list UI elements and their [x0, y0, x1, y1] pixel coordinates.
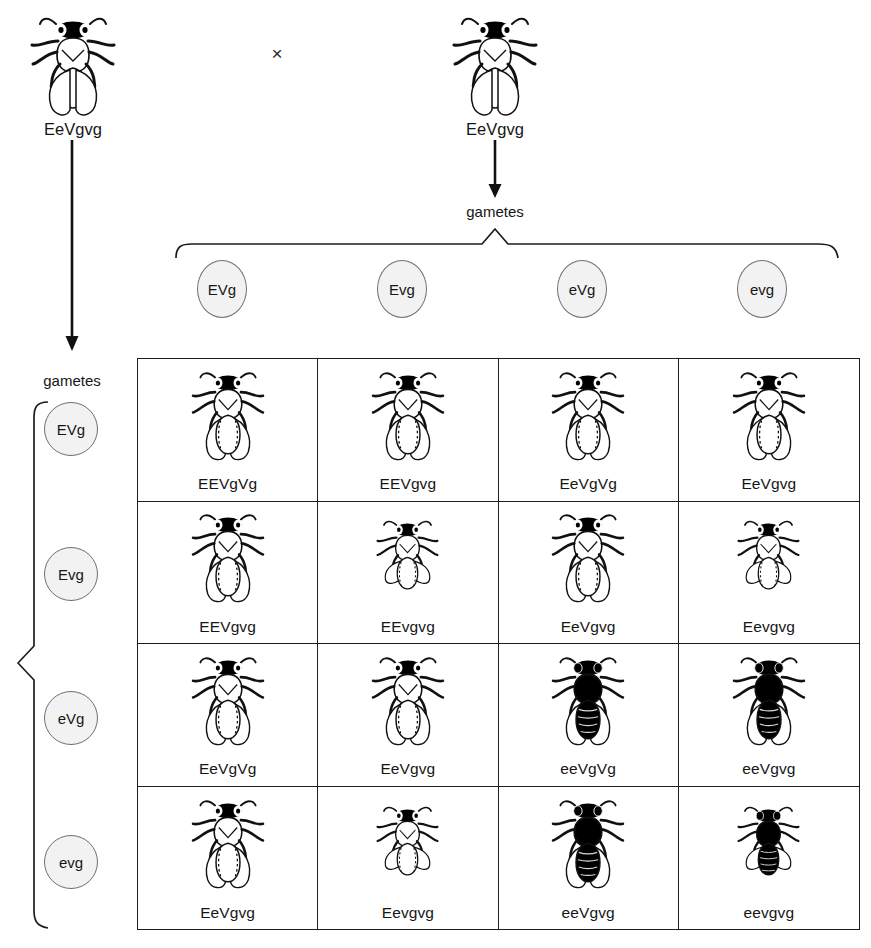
offspring-genotype-label: EeVgvg — [741, 476, 796, 492]
offspring-genotype-label: eeVgvg — [562, 905, 615, 921]
punnett-cell-r2-c3[interactable]: EeVgvg — [499, 502, 679, 645]
gametes-label-left: gametes — [10, 372, 134, 389]
offspring-fly-grey-normal-icon — [499, 359, 678, 474]
punnett-cell-r3-c4[interactable]: eeVgvg — [679, 644, 859, 787]
punnett-cell-r1-c4[interactable]: EeVgvg — [679, 359, 859, 502]
offspring-fly-grey-normal-icon — [138, 502, 317, 617]
offspring-fly-grey-normal-icon — [499, 502, 678, 617]
punnett-cell-r2-c4[interactable]: Eevgvg — [679, 502, 859, 645]
punnett-cell-r4-c4[interactable]: eevgvg — [679, 787, 859, 930]
parent-left-fly — [18, 14, 128, 118]
punnett-cell-r2-c1[interactable]: EEVgvg — [138, 502, 318, 645]
offspring-fly-grey-normal-icon — [318, 644, 497, 759]
cross-symbol: × — [250, 44, 304, 63]
offspring-genotype-label: EEVgvg — [199, 619, 256, 635]
offspring-fly-grey-vestigial-icon — [318, 787, 497, 903]
punnett-cell-r1-c3[interactable]: EeVgVg — [499, 359, 679, 502]
offspring-genotype-label: EeVgVg — [559, 476, 616, 492]
offspring-fly-grey-vestigial-icon — [318, 502, 497, 617]
gamete-top-1[interactable]: EVg — [197, 260, 247, 318]
offspring-genotype-label: EeVgvg — [380, 761, 435, 777]
gamete-left-4[interactable]: evg — [44, 835, 98, 889]
gamete-top-3[interactable]: eVg — [557, 260, 607, 318]
offspring-genotype-label: EeVgvg — [200, 905, 255, 921]
gamete-left-2[interactable]: Evg — [44, 547, 98, 601]
offspring-fly-ebony-normal-icon — [499, 644, 678, 759]
punnett-cell-r1-c1[interactable]: EEVgVg — [138, 359, 318, 502]
gamete-left-3[interactable]: eVg — [44, 691, 98, 745]
punnett-grid: EEVgVgEEVgvgEeVgVgEeVgvgEEVgvgEEvgvgEeVg… — [137, 358, 860, 930]
top-gamete-brace — [170, 224, 850, 260]
offspring-genotype-label: EeVgVg — [199, 761, 256, 777]
gamete-left-4-label: evg — [59, 854, 83, 871]
punnett-cell-r2-c2[interactable]: EEvgvg — [318, 502, 498, 645]
punnett-square-diagram: EeVgvg × — [0, 0, 871, 948]
gamete-top-3-label: eVg — [569, 281, 596, 298]
gamete-top-2[interactable]: Evg — [377, 260, 427, 318]
punnett-cell-r3-c3[interactable]: eeVgVg — [499, 644, 679, 787]
punnett-cell-r4-c3[interactable]: eeVgvg — [499, 787, 679, 930]
offspring-fly-ebony-vestigial-icon — [679, 787, 859, 903]
gamete-left-1[interactable]: EVg — [44, 402, 98, 456]
offspring-genotype-label: Eevgvg — [743, 619, 795, 635]
parent-right-genotype: EeVgvg — [422, 120, 568, 139]
punnett-cell-r4-c2[interactable]: Eevgvg — [318, 787, 498, 930]
punnett-cell-r1-c2[interactable]: EEVgvg — [318, 359, 498, 502]
gamete-top-4-label: evg — [750, 281, 774, 298]
gamete-left-1-label: EVg — [57, 421, 85, 438]
gamete-top-1-label: EVg — [208, 281, 236, 298]
offspring-genotype-label: EeVgvg — [561, 619, 616, 635]
punnett-cell-r4-c1[interactable]: EeVgvg — [138, 787, 318, 930]
offspring-genotype-label: EEVgvg — [380, 476, 437, 492]
offspring-genotype-label: EEvgvg — [381, 619, 435, 635]
punnett-cell-r3-c1[interactable]: EeVgVg — [138, 644, 318, 787]
offspring-genotype-label: eevgvg — [744, 905, 795, 921]
gametes-label-top: gametes — [432, 203, 558, 220]
arrow-down-right-parent — [430, 140, 560, 202]
offspring-fly-grey-vestigial-icon — [679, 502, 859, 617]
gamete-left-3-label: eVg — [58, 710, 85, 727]
arrow-down-left-parent — [10, 140, 140, 355]
offspring-genotype-label: Eevgvg — [382, 905, 434, 921]
offspring-fly-ebony-normal-icon — [499, 787, 678, 903]
gamete-top-2-label: Evg — [389, 281, 415, 298]
offspring-fly-grey-normal-icon — [318, 359, 497, 474]
gamete-top-4[interactable]: evg — [737, 260, 787, 318]
offspring-fly-ebony-normal-icon — [679, 644, 859, 759]
offspring-genotype-label: EEVgVg — [198, 476, 257, 492]
parent-left-genotype: EeVgvg — [0, 120, 146, 139]
offspring-fly-grey-normal-icon — [138, 644, 317, 759]
offspring-genotype-label: eeVgVg — [560, 761, 616, 777]
gamete-left-2-label: Evg — [58, 566, 84, 583]
punnett-cell-r3-c2[interactable]: EeVgvg — [318, 644, 498, 787]
offspring-genotype-label: eeVgvg — [742, 761, 795, 777]
offspring-fly-grey-normal-icon — [679, 359, 859, 474]
offspring-fly-grey-normal-icon — [138, 359, 317, 474]
parent-right-fly — [440, 14, 550, 118]
offspring-fly-grey-normal-icon — [138, 787, 317, 903]
